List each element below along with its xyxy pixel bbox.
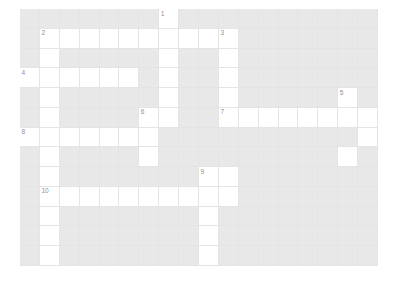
crossword-cell-open[interactable] (100, 68, 120, 88)
crossword-cell-open[interactable] (40, 167, 60, 187)
crossword-cell-block (80, 9, 100, 29)
crossword-cell-open[interactable] (40, 108, 60, 128)
crossword-cell-open[interactable] (40, 147, 60, 167)
crossword-cell-open[interactable] (60, 128, 80, 148)
crossword-cell-open[interactable] (318, 108, 338, 128)
crossword-cell-open[interactable] (119, 68, 139, 88)
crossword-cell-block (259, 49, 279, 69)
crossword-cell-block (179, 49, 199, 69)
crossword-cell-open[interactable] (119, 187, 139, 207)
crossword-cell-open[interactable] (219, 49, 239, 69)
crossword-cell-open[interactable] (199, 246, 219, 266)
crossword-cell-open[interactable] (119, 128, 139, 148)
crossword-cell-block (279, 167, 299, 187)
crossword-cell-block (338, 29, 358, 49)
crossword-cell-open[interactable] (40, 226, 60, 246)
crossword-cell-block (80, 207, 100, 227)
crossword-cell-open[interactable] (80, 187, 100, 207)
crossword-cell-open[interactable] (358, 108, 378, 128)
crossword-cell-open[interactable]: 1 (159, 9, 179, 29)
crossword-cell-block (259, 68, 279, 88)
crossword-cell-block (179, 108, 199, 128)
crossword-cell-block (298, 147, 318, 167)
crossword-cell-open[interactable] (40, 128, 60, 148)
crossword-cell-open[interactable] (219, 88, 239, 108)
crossword-cell-block (259, 246, 279, 266)
crossword-cell-open[interactable] (199, 29, 219, 49)
crossword-cell-open[interactable]: 10 (40, 187, 60, 207)
crossword-cell-open[interactable] (338, 147, 358, 167)
crossword-cell-block (199, 128, 219, 148)
crossword-cell-open[interactable]: 6 (139, 108, 159, 128)
crossword-cell-open[interactable] (40, 68, 60, 88)
crossword-cell-block (80, 49, 100, 69)
crossword-cell-open[interactable] (139, 29, 159, 49)
crossword-cell-block (139, 68, 159, 88)
crossword-cell-open[interactable] (259, 108, 279, 128)
clue-number: 6 (141, 109, 145, 116)
crossword-cell-block (318, 128, 338, 148)
crossword-cell-open[interactable]: 3 (219, 29, 239, 49)
crossword-cell-open[interactable] (199, 207, 219, 227)
crossword-cell-open[interactable] (80, 68, 100, 88)
crossword-cell-block (179, 246, 199, 266)
crossword-cell-open[interactable] (179, 187, 199, 207)
crossword-cell-block (159, 128, 179, 148)
crossword-cell-open[interactable] (219, 167, 239, 187)
crossword-cell-block (20, 167, 40, 187)
crossword-cell-open[interactable] (199, 187, 219, 207)
crossword-cell-open[interactable]: 8 (20, 128, 40, 148)
crossword-cell-block (259, 29, 279, 49)
crossword-cell-open[interactable] (139, 128, 159, 148)
crossword-cell-block (298, 88, 318, 108)
crossword-cell-open[interactable] (100, 187, 120, 207)
crossword-cell-block (259, 128, 279, 148)
clue-number: 8 (22, 129, 26, 136)
crossword-cell-block (80, 246, 100, 266)
crossword-cell-open[interactable] (60, 29, 80, 49)
crossword-cell-block (318, 167, 338, 187)
crossword-cell-open[interactable] (100, 29, 120, 49)
clue-number: 3 (220, 30, 224, 37)
crossword-cell-open[interactable] (60, 68, 80, 88)
crossword-cell-open[interactable] (40, 88, 60, 108)
crossword-cell-open[interactable] (100, 128, 120, 148)
crossword-cell-open[interactable] (40, 207, 60, 227)
crossword-cell-open[interactable] (219, 68, 239, 88)
crossword-cell-open[interactable] (159, 108, 179, 128)
crossword-cell-open[interactable] (139, 147, 159, 167)
crossword-cell-open[interactable] (119, 29, 139, 49)
crossword-cell-open[interactable]: 9 (199, 167, 219, 187)
crossword-cell-open[interactable]: 5 (338, 88, 358, 108)
crossword-cell-open[interactable] (80, 128, 100, 148)
crossword-cell-block (40, 9, 60, 29)
crossword-cell-open[interactable]: 2 (40, 29, 60, 49)
crossword-cell-open[interactable] (338, 108, 358, 128)
crossword-cell-open[interactable] (179, 29, 199, 49)
crossword-cell-block (298, 167, 318, 187)
crossword-cell-open[interactable] (199, 226, 219, 246)
crossword-cell-open[interactable] (358, 128, 378, 148)
crossword-cell-open[interactable] (239, 108, 259, 128)
crossword-cell-block (298, 68, 318, 88)
crossword-cell-block (239, 49, 259, 69)
crossword-cell-block (100, 108, 120, 128)
crossword-cell-open[interactable] (40, 246, 60, 266)
crossword-cell-open[interactable] (279, 108, 299, 128)
crossword-cell-open[interactable] (159, 49, 179, 69)
crossword-cell-open[interactable] (159, 187, 179, 207)
crossword-cell-block (60, 167, 80, 187)
crossword-cell-open[interactable] (159, 88, 179, 108)
crossword-grid[interactable]: 12345678910 (20, 9, 378, 266)
crossword-cell-open[interactable] (159, 29, 179, 49)
crossword-cell-open[interactable] (139, 187, 159, 207)
crossword-cell-open[interactable] (219, 187, 239, 207)
crossword-cell-open[interactable]: 7 (219, 108, 239, 128)
crossword-cell-open[interactable] (40, 49, 60, 69)
crossword-cell-open[interactable] (298, 108, 318, 128)
crossword-cell-open[interactable] (60, 187, 80, 207)
crossword-cell-open[interactable] (159, 68, 179, 88)
crossword-cell-open[interactable]: 4 (20, 68, 40, 88)
crossword-cell-open[interactable] (80, 29, 100, 49)
crossword-cell-block (298, 9, 318, 29)
